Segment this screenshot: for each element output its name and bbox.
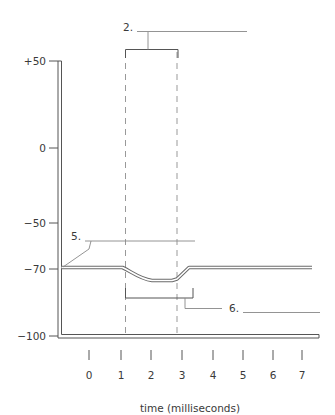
callout-6: 6. [126, 288, 321, 314]
x-tick-label: 7 [299, 369, 306, 381]
callout-2: 2. [123, 21, 247, 58]
dashed-guides [126, 52, 178, 334]
y-tick-label: −100 [17, 330, 46, 342]
x-tick-label: 3 [179, 369, 186, 381]
membrane-potential-trace [62, 268, 313, 281]
y-tick-label: +50 [24, 55, 46, 67]
callout-number-6: 6. [229, 302, 239, 314]
callout-number-2: 2. [123, 21, 133, 33]
x-tick-label: 2 [148, 369, 155, 381]
x-tick-labels: 0 1 2 3 4 5 6 7 [86, 369, 306, 381]
callout-number-5: 5. [71, 230, 81, 242]
y-tick-label: −70 [24, 263, 46, 275]
x-tick-label: 1 [118, 369, 125, 381]
x-axis-label: time (milliseconds) [140, 402, 240, 414]
x-axis [58, 335, 319, 361]
x-tick-label: 0 [86, 369, 93, 381]
x-tick-label: 4 [210, 369, 217, 381]
x-tick-label: 6 [270, 369, 277, 381]
x-tick-label: 5 [240, 369, 247, 381]
callout-5: 5. [63, 230, 195, 267]
diagram-canvas: +50 0 −50 −70 −100 0 1 2 3 4 5 6 7 time … [0, 0, 335, 415]
y-tick-label: 0 [39, 142, 46, 154]
y-tick-labels: +50 0 −50 −70 −100 [17, 55, 46, 342]
y-tick-label: −50 [24, 217, 46, 229]
y-axis [49, 61, 62, 338]
